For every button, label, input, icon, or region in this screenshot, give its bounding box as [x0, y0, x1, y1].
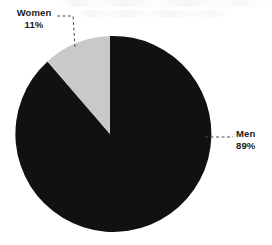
women-label-percent: 11% [8, 19, 60, 31]
women-label-name: Women [8, 7, 60, 19]
men-slice-label: Men 89% [236, 128, 272, 152]
men-label-name: Men [236, 128, 272, 140]
pie-slice-men[interactable] [15, 36, 211, 232]
pie-chart: Women 11% Men 89% [0, 0, 272, 245]
men-label-percent: 89% [236, 140, 272, 152]
pie-chart-canvas [0, 0, 272, 245]
women-slice-label: Women 11% [8, 7, 60, 31]
